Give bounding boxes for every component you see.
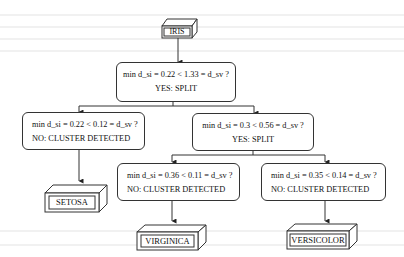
leaf-setosa: SETOSA <box>49 198 95 207</box>
root-node-iris: IRIS <box>162 28 192 36</box>
decision-node-2: min d_si = 0.22 < 0.12 = d_sv ? NO: CLUS… <box>22 112 145 150</box>
node-answer: YES: SPLIT <box>193 136 313 144</box>
node-answer: YES: SPLIT <box>117 85 235 93</box>
node-question: min d_si = 0.22 < 0.12 = d_sv ? <box>23 121 144 129</box>
node-question: min d_si = 0.22 < 1.33 = d_sv ? <box>117 71 235 79</box>
decision-node-3: min d_si = 0.3 < 0.56 = d_sv ? YES: SPLI… <box>192 113 314 151</box>
decision-tree-diagram: IRIS min d_si = 0.22 < 1.33 = d_sv ? YES… <box>0 0 404 257</box>
node-answer: NO: CLUSTER DETECTED <box>118 186 239 194</box>
node-answer: NO: CLUSTER DETECTED <box>23 135 144 143</box>
node-question: min d_si = 0.35 < 0.14 = d_sv ? <box>262 172 385 180</box>
node-question: min d_si = 0.36 < 0.11 = d_sv ? <box>118 172 239 180</box>
decision-node-4: min d_si = 0.36 < 0.11 = d_sv ? NO: CLUS… <box>117 163 240 201</box>
leaf-virginica: VIRGINICA <box>141 237 194 246</box>
decision-node-1: min d_si = 0.22 < 1.33 = d_sv ? YES: SPL… <box>116 62 236 102</box>
node-answer: NO: CLUSTER DETECTED <box>262 186 385 194</box>
leaf-versicolor: VERSICOLOR <box>290 236 346 245</box>
decision-node-5: min d_si = 0.35 < 0.14 = d_sv ? NO: CLUS… <box>261 163 386 201</box>
node-question: min d_si = 0.3 < 0.56 = d_sv ? <box>193 122 313 130</box>
